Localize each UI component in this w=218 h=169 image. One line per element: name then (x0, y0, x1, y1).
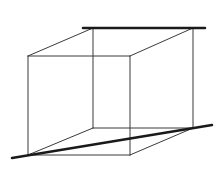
background (0, 0, 218, 169)
cube-diagram (0, 0, 218, 169)
